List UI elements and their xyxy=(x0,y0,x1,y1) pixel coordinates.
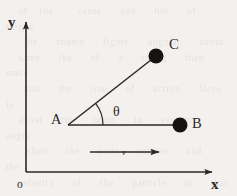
y-axis-label: y xyxy=(8,14,16,30)
angle-arc xyxy=(96,103,103,125)
velocity-label: v xyxy=(122,147,126,157)
angle-arc-group xyxy=(96,103,103,125)
segments-group xyxy=(68,56,180,125)
point-marker-c xyxy=(149,49,164,64)
x-axis-label: x xyxy=(211,176,219,192)
point-label-b: B xyxy=(192,115,202,131)
diagram-canvas: y x o A B C θ v xyxy=(0,0,237,196)
origin-label: o xyxy=(17,178,23,190)
point-labels-group: A B C xyxy=(51,36,202,131)
angle-theta-label: θ xyxy=(113,104,120,119)
point-marker-b xyxy=(173,118,188,133)
segment-ac xyxy=(68,56,156,125)
point-label-a: A xyxy=(51,111,62,127)
point-label-c: C xyxy=(169,36,179,52)
axes-group: y x o xyxy=(8,14,219,192)
physics-diagram-figure: of the cause and hot of torque the shown… xyxy=(0,0,237,196)
point-markers-group xyxy=(149,49,188,133)
velocity-vector-group: v xyxy=(90,147,159,157)
